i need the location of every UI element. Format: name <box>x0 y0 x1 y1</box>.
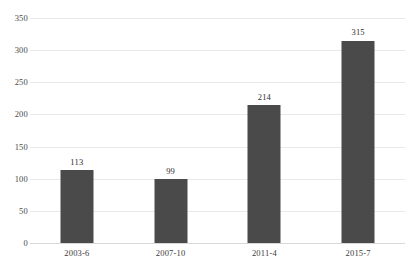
bar <box>342 41 375 244</box>
y-axis-tick-label: 150 <box>2 143 28 152</box>
y-axis-tick-label: 300 <box>2 46 28 55</box>
y-axis-tick-label: 0 <box>2 239 28 248</box>
y-axis-tick-label: 200 <box>2 110 28 119</box>
bar <box>60 170 93 243</box>
bar-group: 99 <box>124 18 218 243</box>
bar-group: 214 <box>218 18 312 243</box>
y-axis-tick-label: 350 <box>2 14 28 23</box>
x-axis-category-label: 2011-4 <box>252 249 277 258</box>
bar-group: 113 <box>30 18 124 243</box>
bar-chart: 050100150200250300350 11399214315 2003-6… <box>0 0 412 269</box>
y-axis: 050100150200250300350 <box>0 18 28 243</box>
plot-area: 11399214315 <box>30 18 405 243</box>
bar <box>248 105 281 243</box>
bar-value-label: 214 <box>258 93 271 102</box>
x-axis-category-label: 2003-6 <box>64 249 89 258</box>
bar <box>154 179 187 243</box>
x-axis-category-label: 2015-7 <box>345 249 370 258</box>
y-axis-tick-label: 250 <box>2 78 28 87</box>
y-axis-tick-label: 100 <box>2 175 28 184</box>
y-axis-tick-label: 50 <box>2 207 28 216</box>
x-axis-category-label: 2007-10 <box>156 249 186 258</box>
bar-value-label: 315 <box>351 28 364 37</box>
bar-value-label: 99 <box>166 167 175 176</box>
bar-value-label: 113 <box>70 158 83 167</box>
bar-group: 315 <box>311 18 405 243</box>
axis-baseline <box>30 243 405 244</box>
x-axis: 2003-62007-102011-42015-7 <box>30 249 405 265</box>
